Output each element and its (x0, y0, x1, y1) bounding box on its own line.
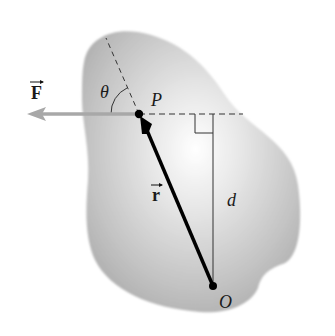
position-vector-label: r (152, 185, 160, 205)
point-p-label: P (150, 90, 162, 110)
lever-arm-label: d (227, 190, 237, 210)
angle-label: θ (100, 82, 109, 102)
force-label: F (31, 83, 42, 103)
torque-diagram: F θ P r d O (0, 0, 335, 336)
label-force: F (30, 80, 44, 103)
point-o-dot (209, 282, 217, 290)
rigid-body-shape (82, 31, 300, 312)
point-p-dot (135, 110, 143, 118)
origin-label: O (219, 292, 232, 312)
